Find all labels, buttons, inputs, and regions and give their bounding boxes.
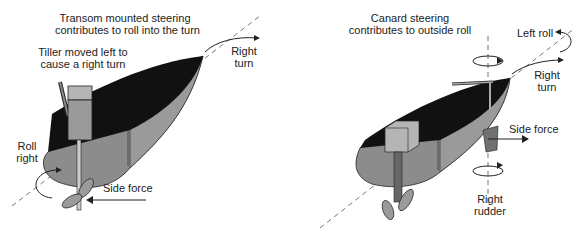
- right-rudder-line1: Right: [472, 193, 508, 205]
- left-title-line1: Transom mounted steering: [55, 12, 195, 24]
- canard-right-turn-label: Right turn: [531, 69, 563, 93]
- canard-turn-line1: Right: [531, 69, 563, 81]
- rudder-head: [68, 86, 92, 100]
- canard-turn-line2: turn: [531, 81, 563, 93]
- canard-side-force-label: Side force: [509, 123, 559, 135]
- roll-right-line2: right: [14, 152, 40, 164]
- left-title: Transom mounted steering contributes to …: [55, 12, 195, 36]
- motor-box: [385, 121, 419, 152]
- right-rudder-line2: rudder: [472, 205, 508, 217]
- rudder-box: [68, 100, 92, 140]
- right-turn-line2: turn: [228, 57, 260, 69]
- right-title: Canard steering contributes to outside r…: [345, 12, 475, 36]
- roll-right-label: Roll right: [14, 140, 40, 164]
- side-force-label: Side force: [103, 182, 153, 194]
- tiller-label-line1: Tiller moved left to: [38, 46, 128, 58]
- right-turn-line1: Right: [228, 45, 260, 57]
- roll-right-line1: Roll: [14, 140, 40, 152]
- right-turn-label: Right turn: [228, 45, 260, 69]
- tiller-label-line2: cause a right turn: [38, 58, 128, 70]
- canard-propeller-blade: [380, 199, 396, 221]
- motor-leg: [394, 152, 402, 202]
- left-roll-arrow: [558, 32, 571, 52]
- right-title-line1: Canard steering: [345, 12, 475, 24]
- right-rudder-label: Right rudder: [472, 193, 508, 217]
- right-title-line2: contributes to outside roll: [345, 24, 475, 36]
- left-roll-label: Left roll: [517, 27, 553, 39]
- left-title-line2: contributes to roll into the turn: [55, 24, 195, 36]
- tiller-label: Tiller moved left to cause a right turn: [38, 46, 128, 70]
